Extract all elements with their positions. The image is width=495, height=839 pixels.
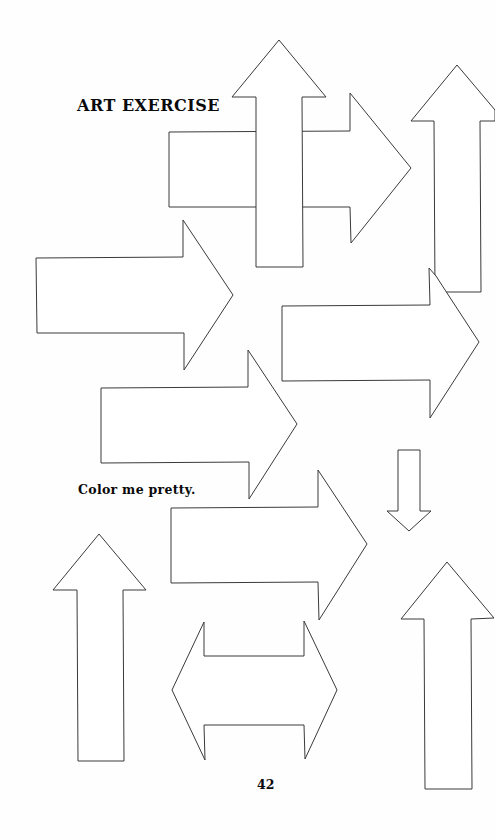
- arrow-down-icon: [387, 450, 431, 531]
- arrow-right-icon: [171, 470, 367, 620]
- arrow-shapes: [0, 0, 495, 839]
- instruction-text: Color me pretty.: [78, 482, 196, 497]
- page-number: 42: [257, 777, 274, 792]
- arrow-right-icon: [36, 220, 233, 370]
- coloring-page: ART EXERCISE Color me pretty. 42: [0, 0, 495, 839]
- arrow-up-icon: [401, 562, 494, 789]
- arrow-double-icon: [172, 621, 337, 760]
- page-title: ART EXERCISE: [77, 96, 220, 116]
- arrow-right-icon: [101, 350, 297, 499]
- arrow-up-icon: [53, 534, 146, 761]
- arrow-up-icon: [411, 65, 495, 292]
